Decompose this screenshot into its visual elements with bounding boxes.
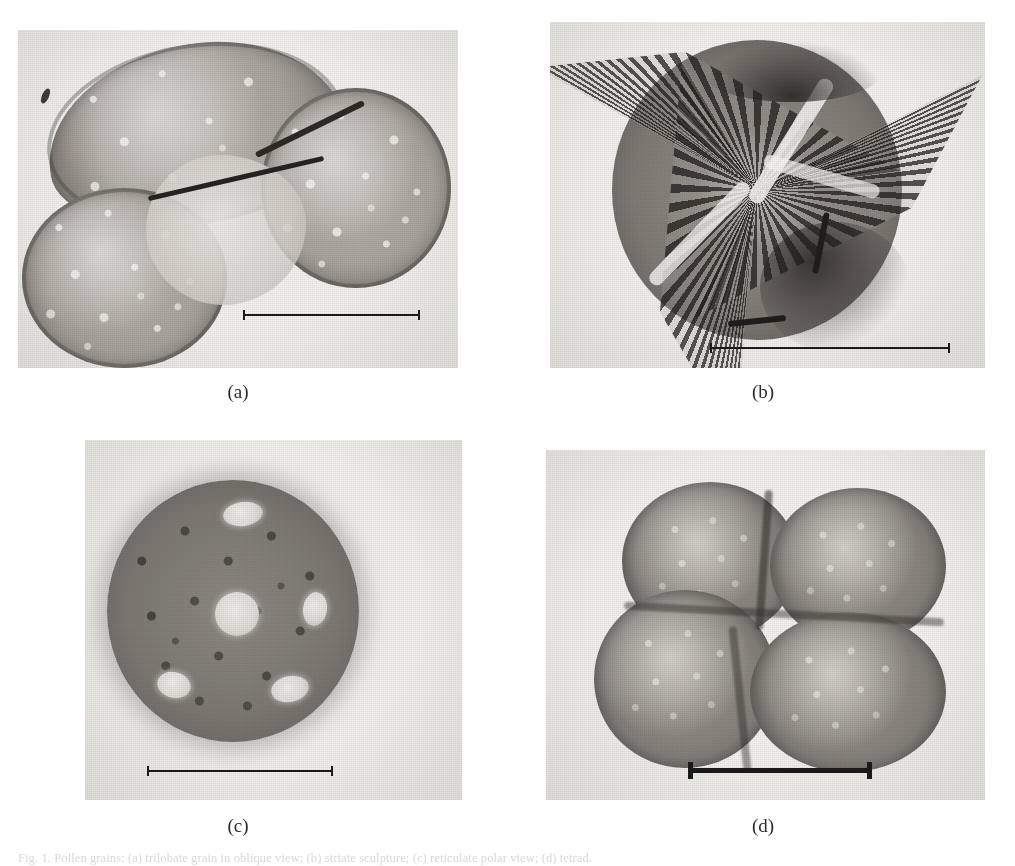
panel-label-c: (c) [208, 815, 268, 837]
exine-granules [788, 504, 929, 629]
panel-a-photo [18, 30, 458, 368]
dark-margin-bottom-right [760, 222, 910, 352]
panel-d-photo [546, 450, 985, 800]
scale-bar-a [243, 314, 420, 316]
panel-b-photo [550, 22, 985, 368]
tetrad-cell-bottom-right [750, 612, 946, 772]
debris-speck [39, 87, 52, 104]
tetrad-cell-bottom-left [594, 590, 776, 768]
panel-c [85, 440, 462, 800]
scale-bar-c [147, 770, 333, 772]
panel-d [546, 450, 985, 800]
scale-bar-b [710, 347, 950, 349]
exine-granules [770, 628, 927, 756]
panel-label-b: (b) [733, 381, 793, 403]
grain-sphere [107, 480, 359, 742]
panel-b [550, 22, 985, 368]
panel-c-photo [85, 440, 462, 800]
figure-caption: Fig. 1. Pollen grains: (a) trilobate gra… [18, 851, 592, 866]
panel-a [18, 30, 458, 368]
panel-label-d: (d) [733, 815, 793, 837]
panel-label-a: (a) [208, 381, 268, 403]
scale-bar-d [688, 768, 872, 773]
dark-margin-top [702, 42, 882, 102]
pore-central [215, 592, 259, 636]
